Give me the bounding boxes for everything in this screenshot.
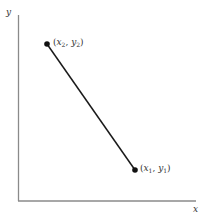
point-label-x2-y2: (x2, y2) [53,38,84,48]
x-axis-label: x [193,205,198,214]
line-segment [47,44,135,170]
point-label-x1-y1: (x1, y1) [140,164,171,174]
label-close-paren: ) [80,37,84,47]
point-x2-y2 [44,41,50,47]
coordinate-diagram [0,0,204,223]
y-axis-label: y [6,8,11,17]
point-x1-y1 [132,167,138,173]
label-close-paren: ) [167,163,171,173]
